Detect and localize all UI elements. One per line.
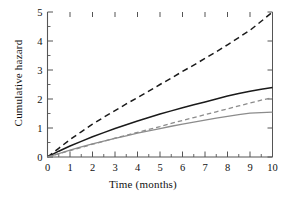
series-line-upper-dashed-black xyxy=(48,12,273,157)
x-tick-label: 3 xyxy=(112,162,117,173)
x-tick-label: 7 xyxy=(202,162,207,173)
y-tick-label: 2 xyxy=(37,94,42,105)
y-axis-label: Cumulative hazard xyxy=(12,13,24,153)
y-tick-label: 1 xyxy=(37,123,42,134)
x-axis-label: Time (months) xyxy=(0,178,286,190)
y-tick-label: 3 xyxy=(37,65,42,76)
tick-labels-group: 012345678910012345 xyxy=(37,7,278,173)
x-tick-label: 10 xyxy=(267,162,278,173)
x-tick-label: 2 xyxy=(90,162,95,173)
series-line-solid-gray xyxy=(48,112,273,157)
y-tick-label: 0 xyxy=(37,152,42,163)
figure-container: 012345678910012345 Time (months) Cumulat… xyxy=(0,0,286,198)
x-tick-label: 5 xyxy=(157,162,162,173)
series-line-dashed-gray xyxy=(48,98,273,157)
x-tick-label: 9 xyxy=(247,162,252,173)
x-tick-label: 0 xyxy=(45,162,50,173)
y-tick-label: 5 xyxy=(37,7,42,18)
cumulative-hazard-chart: 012345678910012345 xyxy=(0,0,286,198)
x-tick-label: 6 xyxy=(180,162,185,173)
y-tick-label: 4 xyxy=(37,36,43,47)
x-tick-label: 4 xyxy=(135,162,141,173)
x-tick-label: 1 xyxy=(67,162,72,173)
data-series-group xyxy=(48,12,273,157)
x-tick-label: 8 xyxy=(225,162,230,173)
